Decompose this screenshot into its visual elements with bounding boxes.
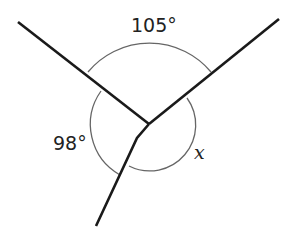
label-98: 98° <box>53 132 87 154</box>
diagram-svg <box>0 0 297 242</box>
ray-lower <box>96 124 149 226</box>
angle-diagram: 105° 98° x <box>0 0 297 242</box>
label-x: x <box>194 141 205 163</box>
arc-98 <box>90 91 120 175</box>
label-105: 105° <box>131 14 177 36</box>
arc-105 <box>88 43 211 72</box>
ray-upper-left <box>18 22 149 124</box>
